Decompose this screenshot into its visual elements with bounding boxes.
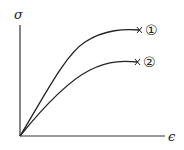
- curve-2-label: ②: [143, 55, 156, 69]
- curve-2: [20, 61, 138, 136]
- curve-1-label: ①: [145, 23, 158, 37]
- y-axis-label: σ: [14, 8, 23, 21]
- x-axis-label: ϵ: [168, 130, 175, 143]
- curve-1: [20, 30, 140, 136]
